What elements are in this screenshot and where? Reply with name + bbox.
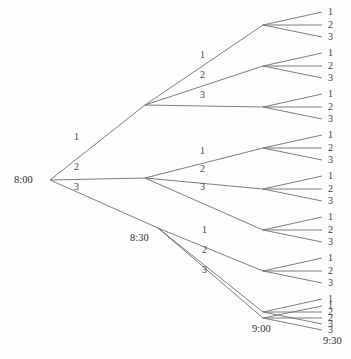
tree-diagram-canvas: 1231231231231231231231231231231231231238…	[0, 0, 351, 359]
leaf-label-1-1: 1	[328, 7, 333, 17]
leaf-label-4-3: 3	[328, 155, 333, 165]
leaf-label-9-2: 2	[328, 313, 333, 323]
leaf-label-9-3: 3	[328, 325, 333, 335]
edge-level2-3-3	[158, 228, 263, 318]
edge-level3-2-3	[263, 66, 322, 78]
leaf-label-4-2: 2	[328, 143, 333, 153]
leaf-label-2-3: 3	[328, 73, 333, 83]
edge-level3-5-1	[263, 176, 322, 189]
branch-label-l1-1: 1	[74, 132, 79, 142]
edge-level3-9-3	[263, 318, 322, 330]
edge-level1-1	[50, 105, 145, 180]
leaf-label-3-3: 3	[328, 114, 333, 124]
branch-label-l2-2-2: 2	[200, 164, 205, 174]
edge-level3-4-1	[263, 135, 322, 148]
leaf-label-3-2: 2	[328, 102, 333, 112]
time-label-800: 8:00	[14, 175, 33, 186]
edge-level3-4-3	[263, 148, 322, 160]
leaf-label-1-3: 3	[328, 32, 333, 42]
edge-level2-1-3	[145, 105, 263, 107]
leaf-label-5-2: 2	[328, 184, 333, 194]
time-label-930: 9:30	[323, 336, 342, 347]
leaf-label-5-3: 3	[328, 196, 333, 206]
branch-label-l2-3-3: 3	[202, 265, 207, 275]
branch-label-l1-2: 2	[74, 162, 79, 172]
leaf-label-7-2: 2	[328, 266, 333, 276]
leaf-label-3-1: 1	[328, 89, 333, 99]
edge-level3-6-1	[263, 217, 322, 230]
leaf-label-7-3: 3	[328, 278, 333, 288]
branch-label-l1-3: 3	[74, 182, 79, 192]
edge-level3-7-3	[263, 271, 322, 283]
edge-level2-3-1	[158, 228, 263, 271]
edge-level3-7-1	[263, 258, 322, 271]
leaf-label-9-1: 1	[328, 301, 333, 311]
time-label-830: 8:30	[130, 233, 149, 244]
edge-level3-3-1	[263, 94, 322, 107]
branch-label-l2-2-3: 3	[200, 182, 205, 192]
leaf-label-6-2: 2	[328, 225, 333, 235]
edge-level1-3	[50, 180, 158, 228]
leaf-label-5-1: 1	[328, 171, 333, 181]
edge-level3-3-3	[263, 107, 322, 119]
edge-level3-6-3	[263, 230, 322, 242]
edge-level3-2-1	[263, 53, 322, 66]
edges-group	[50, 12, 322, 330]
branch-label-l2-3-2: 2	[202, 245, 207, 255]
edge-level2-3-2	[158, 228, 263, 312]
edge-level3-5-3	[263, 189, 322, 201]
edge-level1-2	[50, 178, 145, 180]
leaf-label-7-1: 1	[328, 253, 333, 263]
branch-label-l2-1-1: 1	[200, 50, 205, 60]
edge-level3-1-3	[263, 25, 322, 37]
leaf-label-2-1: 1	[328, 48, 333, 58]
branch-label-l2-1-3: 3	[200, 90, 205, 100]
branch-label-l2-3-1: 1	[202, 225, 207, 235]
branch-label-l2-1-2: 2	[200, 70, 205, 80]
leaf-label-2-2: 2	[328, 61, 333, 71]
leaf-label-6-1: 1	[328, 212, 333, 222]
time-label-900: 9:00	[252, 324, 271, 335]
tree-edges-svg	[0, 0, 351, 359]
leaf-label-6-3: 3	[328, 237, 333, 247]
leaf-label-1-2: 2	[328, 20, 333, 30]
edge-level3-1-1	[263, 12, 322, 25]
edge-level3-8-1	[263, 299, 322, 312]
leaf-label-4-1: 1	[328, 130, 333, 140]
branch-label-l2-2-1: 1	[200, 146, 205, 156]
